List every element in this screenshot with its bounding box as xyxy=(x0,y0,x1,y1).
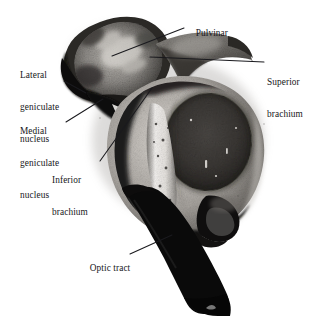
inferior-tail xyxy=(195,196,240,248)
label-line: brachium xyxy=(267,109,303,120)
label-inferior-brachium: Inferior brachium xyxy=(52,154,88,239)
label-line: Lateral xyxy=(20,70,59,81)
label-line: Medial xyxy=(20,126,59,137)
label-superior-brachium: Superior brachium xyxy=(267,56,303,141)
label-line: Superior xyxy=(267,77,303,88)
main-body xyxy=(102,76,264,238)
label-line: Inferior xyxy=(52,175,88,186)
label-pulvinar: Pulvinar xyxy=(186,17,228,49)
label-optic-tract: Optic tract xyxy=(80,252,130,284)
anatomy-figure: Pulvinar Lateral geniculate nucleus Medi… xyxy=(0,0,331,334)
label-line: brachium xyxy=(52,207,88,218)
